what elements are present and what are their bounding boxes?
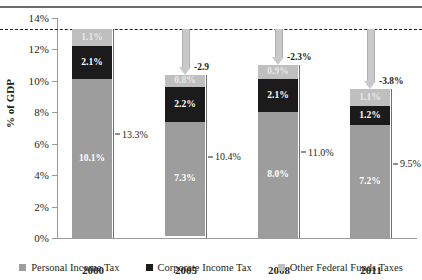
bar-segment-corporate-income-tax-2005[interactable]: 2.2% xyxy=(165,87,205,122)
bar-segment-label: 2.1% xyxy=(81,58,102,68)
arrow-head-down-icon xyxy=(272,57,284,65)
bar-segment-label: 1.1% xyxy=(81,33,102,43)
bar-segment-label: 0.8% xyxy=(174,76,195,86)
plot-area: 0%2%4%6%8%10%12%14% 1.1%2.1%10.1%13.3%0.… xyxy=(57,18,417,238)
bar-segment-other-federal-funds-taxes-2011[interactable]: 1.1% xyxy=(350,89,390,106)
bar-total-label-2005: 10.4% xyxy=(208,151,241,162)
stacked-bar-chart: % of GDP 0%2%4%6%8%10%12%14% 1.1%2.1%10.… xyxy=(0,0,422,280)
y-axis-line xyxy=(57,18,58,238)
legend-swatch-icon xyxy=(19,264,26,271)
y-tick-label: 14% xyxy=(29,12,49,24)
bar-total-label-2000: 13.3% xyxy=(115,128,148,139)
chart-legend: Personal Income TaxCorporate Income TaxO… xyxy=(0,262,422,273)
gap-arrow-2008 xyxy=(272,29,285,65)
bar-segment-personal-income-tax-2011[interactable]: 7.2% xyxy=(350,125,390,238)
bar-segment-corporate-income-tax-2008[interactable]: 2.1% xyxy=(258,79,298,112)
bar-segment-other-federal-funds-taxes-2005[interactable]: 0.8% xyxy=(165,75,205,88)
bar-segment-personal-income-tax-2005[interactable]: 7.3% xyxy=(165,122,205,237)
bar-segment-label: 2.1% xyxy=(267,91,288,101)
legend-swatch-icon xyxy=(146,264,153,271)
reference-line xyxy=(0,29,422,30)
stacked-bar-2000[interactable]: 1.1%2.1%10.1% xyxy=(72,29,113,238)
bar-segment-corporate-income-tax-2011[interactable]: 1.2% xyxy=(350,106,390,125)
y-tick-6% xyxy=(52,144,57,145)
arrow-shaft xyxy=(367,29,375,81)
y-tick-8% xyxy=(52,112,57,113)
bar-segment-other-federal-funds-taxes-2008[interactable]: 0.9% xyxy=(258,65,298,79)
x-axis-line xyxy=(57,238,417,239)
bar-segment-label: 7.2% xyxy=(359,177,380,187)
legend-item-personal-income-tax[interactable]: Personal Income Tax xyxy=(19,262,119,273)
gap-label-2008: -2.3% xyxy=(287,52,312,62)
legend-item-other-federal-funds-taxes[interactable]: Other Federal Funds Taxes xyxy=(278,262,403,273)
y-tick-2% xyxy=(52,207,57,208)
bar-segment-label: 2.2% xyxy=(174,100,195,110)
legend-label: Corporate Income Tax xyxy=(158,262,252,273)
y-tick-label: 12% xyxy=(29,43,49,55)
bar-segment-personal-income-tax-2008[interactable]: 8.0% xyxy=(258,112,298,238)
arrow-head-down-icon xyxy=(364,81,376,89)
y-tick-4% xyxy=(52,175,57,176)
stacked-bar-2005[interactable]: 0.8%2.2%7.3% xyxy=(165,75,206,238)
top-divider xyxy=(0,6,422,8)
legend-item-corporate-income-tax[interactable]: Corporate Income Tax xyxy=(146,262,252,273)
arrow-shaft xyxy=(275,29,283,57)
legend-label: Other Federal Funds Taxes xyxy=(290,262,403,273)
bar-segment-label: 7.3% xyxy=(174,174,195,184)
bar-segment-label: 1.2% xyxy=(359,111,380,121)
bar-segment-corporate-income-tax-2000[interactable]: 2.1% xyxy=(72,46,112,79)
gap-label-2011: -3.8% xyxy=(379,76,404,86)
bar-segment-label: 10.1% xyxy=(79,154,105,164)
y-tick-label: 4% xyxy=(34,169,49,181)
legend-swatch-icon xyxy=(278,264,285,271)
y-tick-label: 6% xyxy=(34,138,49,150)
bar-segment-label: 0.9% xyxy=(267,67,288,77)
stacked-bar-2008[interactable]: 0.9%2.1%8.0% xyxy=(258,65,299,238)
bar-segment-label: 8.0% xyxy=(267,170,288,180)
y-tick-0% xyxy=(52,238,57,239)
bar-total-label-2011: 9.5% xyxy=(393,158,421,169)
bar-segment-other-federal-funds-taxes-2000[interactable]: 1.1% xyxy=(72,29,112,46)
bar-total-label-2008: 11.0% xyxy=(301,146,333,157)
y-tick-label: 2% xyxy=(34,201,49,213)
bar-segment-personal-income-tax-2000[interactable]: 10.1% xyxy=(72,79,112,238)
y-tick-10% xyxy=(52,81,57,82)
gap-arrow-2005 xyxy=(179,29,192,75)
y-tick-label: 10% xyxy=(29,75,49,87)
legend-label: Personal Income Tax xyxy=(31,262,119,273)
y-tick-14% xyxy=(52,18,57,19)
y-tick-label: 0% xyxy=(34,232,49,244)
y-axis-title: % of GDP xyxy=(4,79,16,128)
y-tick-12% xyxy=(52,49,57,50)
stacked-bar-2011[interactable]: 1.1%1.2%7.2% xyxy=(350,89,391,238)
arrow-shaft xyxy=(182,29,190,67)
bar-segment-label: 1.1% xyxy=(359,93,380,103)
gap-label-2005: -2.9 xyxy=(194,62,209,72)
y-tick-label: 8% xyxy=(34,106,49,118)
arrow-head-down-icon xyxy=(179,67,191,75)
gap-arrow-2011 xyxy=(364,29,377,89)
